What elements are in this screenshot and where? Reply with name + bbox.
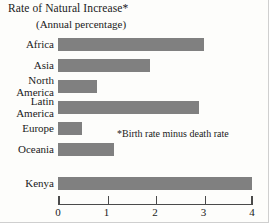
category-label-latin-america: LatinAmerica <box>2 96 58 119</box>
category-label-oceania: Oceania <box>2 144 58 156</box>
category-label-line: Europe <box>2 123 54 135</box>
chart-subtitle: (Annual percentage) <box>36 18 126 30</box>
x-axis-tick <box>156 196 157 205</box>
category-label-line: America <box>2 108 54 120</box>
chart-figure: Rate of Natural Increase* (Annual percen… <box>0 0 269 223</box>
category-label-column: AfricaAsiaNorthAmericaLatinAmericaEurope… <box>0 38 58 204</box>
bar-fill <box>58 59 150 72</box>
chart-footnote: *Birth rate minus death rate <box>117 128 229 139</box>
x-axis-tick <box>108 196 109 205</box>
category-label-line: Kenya <box>2 178 54 190</box>
x-axis-tick-label: 0 <box>55 206 61 218</box>
category-label-africa: Africa <box>2 39 58 51</box>
category-label-line: North <box>2 75 54 87</box>
category-label-kenya: Kenya <box>2 178 58 190</box>
bar-kenya <box>58 177 252 190</box>
bar-fill <box>58 80 97 93</box>
bar-africa <box>58 38 204 51</box>
x-axis-tick-label: 3 <box>201 206 207 218</box>
chart-title: Rate of Natural Increase* <box>8 2 128 14</box>
bar-fill <box>58 38 204 51</box>
bar-fill <box>58 177 252 190</box>
bar-latin-america <box>58 101 199 114</box>
x-axis-tick-label: 1 <box>104 206 110 218</box>
x-axis-tick-label: 4 <box>249 206 255 218</box>
bar-europe <box>58 122 82 135</box>
bar-north-america <box>58 80 97 93</box>
category-label-line: Asia <box>2 60 54 72</box>
category-label-line: Latin <box>2 96 54 108</box>
bar-asia <box>58 59 150 72</box>
x-axis-tick <box>59 196 60 205</box>
x-axis <box>58 196 252 205</box>
bar-fill <box>58 143 114 156</box>
plot-area <box>58 38 252 204</box>
bar-fill <box>58 101 199 114</box>
x-axis-tick-label: 2 <box>152 206 158 218</box>
category-label-asia: Asia <box>2 60 58 72</box>
category-label-line: Oceania <box>2 144 54 156</box>
bar-fill <box>58 122 82 135</box>
category-label-line: Africa <box>2 39 54 51</box>
category-label-europe: Europe <box>2 123 58 135</box>
x-axis-tick <box>205 196 206 205</box>
x-axis-tick <box>252 196 253 205</box>
bar-oceania <box>58 143 114 156</box>
